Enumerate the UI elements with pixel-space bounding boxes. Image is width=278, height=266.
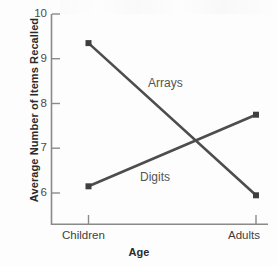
x-axis-title: Age [0, 246, 278, 258]
series-line-arrays [89, 43, 257, 195]
series-marker-arrays-adults [253, 192, 259, 198]
series-label-digits: Digits [140, 170, 170, 184]
series-label-arrays: Arrays [148, 76, 183, 90]
y-tick-marks [52, 14, 60, 193]
x-tick-label-children: Children [62, 230, 105, 242]
x-tick-label-adults: Adults [228, 230, 260, 242]
series-marker-arrays-children [86, 40, 92, 46]
series-marker-digits-adults [253, 112, 259, 118]
y-axis-title: Average Number of Items Recalled [28, 10, 40, 210]
x-tick-marks [89, 215, 257, 224]
series-line-digits [89, 115, 257, 187]
chart-figure: 10 9 8 7 6 Children Adults Average Numbe… [0, 0, 278, 266]
series-marker-digits-children [86, 183, 92, 189]
chart-canvas [0, 0, 278, 266]
